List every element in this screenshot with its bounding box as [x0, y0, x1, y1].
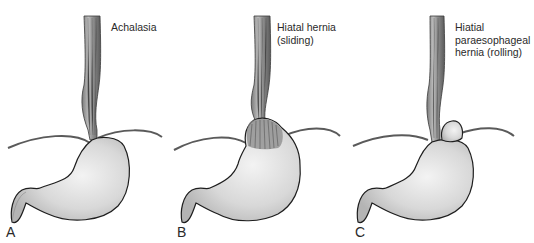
diaphragm-left: [174, 138, 246, 150]
diaphragm-left: [353, 135, 428, 146]
caption-rolling-hernia: Hiatial paraesophageal hernia (rolling): [455, 21, 530, 59]
achalasia-illustration: [0, 0, 178, 243]
panel-letter-b: B: [177, 224, 186, 240]
diaphragm-right: [284, 129, 340, 137]
esophageal-disorders-figure: Achalasia A Hiatal hernia (sliding) B: [0, 0, 534, 243]
panel-letter-a: A: [6, 224, 15, 240]
diaphragm-left: [8, 136, 90, 148]
diaphragm-right: [458, 128, 514, 136]
caption-sliding-hernia: Hiatal hernia (sliding): [277, 21, 336, 46]
esophagus: [82, 16, 101, 140]
panel-c: Hiatial paraesophageal hernia (rolling) …: [350, 0, 534, 243]
panel-b: Hiatal hernia (sliding) B: [170, 0, 350, 243]
diaphragm-right: [98, 130, 162, 138]
caption-achalasia: Achalasia: [111, 21, 157, 34]
esophagus: [251, 16, 270, 122]
panel-a: Achalasia A: [0, 0, 178, 243]
stomach: [357, 140, 473, 223]
esophagus: [427, 16, 445, 142]
panel-letter-c: C: [355, 224, 365, 240]
stomach: [11, 138, 129, 223]
herniated-fundus-bulge: [441, 121, 462, 142]
